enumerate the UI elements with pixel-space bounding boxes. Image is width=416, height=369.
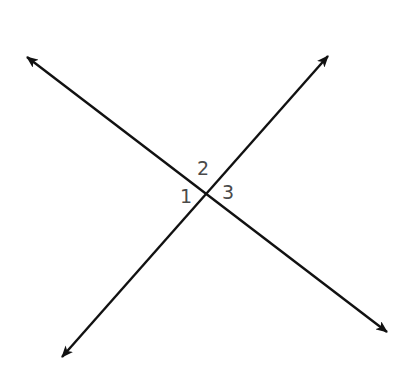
intersecting-lines-figure — [0, 0, 416, 369]
line-sw-ne — [62, 56, 328, 357]
angle-label-1: 1 — [180, 187, 192, 206]
angle-label-2: 2 — [197, 159, 209, 178]
diagram-canvas: 1 2 3 — [0, 0, 416, 369]
angle-label-3: 3 — [222, 183, 234, 202]
